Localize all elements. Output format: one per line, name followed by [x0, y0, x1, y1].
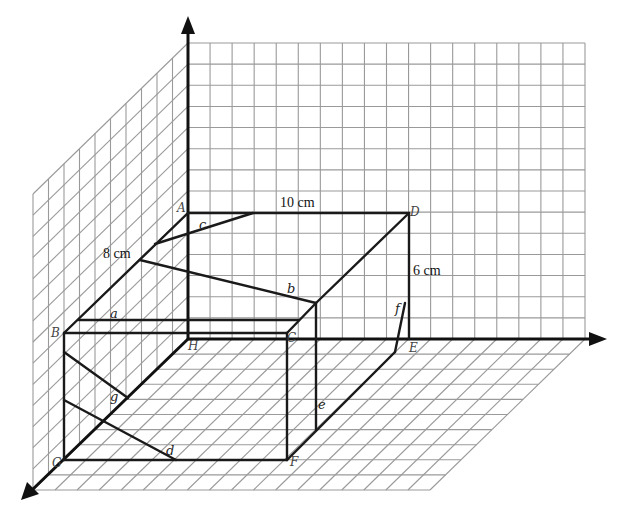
- floor-grid: [33, 339, 585, 490]
- depth-label: 8 cm: [103, 246, 131, 261]
- length-label: 10 cm: [280, 195, 315, 210]
- vertex-label-D: D: [409, 205, 420, 219]
- vertex-label-F: F: [289, 455, 299, 469]
- segment-label-f: f: [394, 301, 402, 316]
- segment-label-b: b: [287, 281, 295, 296]
- x-axis-arrow-icon: [589, 332, 607, 346]
- edge-FE: [287, 352, 395, 460]
- vertex-label-H: H: [187, 339, 199, 353]
- vertex-label-E: E: [408, 341, 418, 355]
- vertex-label-A: A: [176, 201, 186, 215]
- cuboid-diagram: A B C D E F G H a b c d e f g 10 cm 8 cm…: [0, 0, 634, 526]
- y-axis-arrow-icon: [181, 16, 195, 34]
- segment-label-c: c: [199, 217, 207, 232]
- vertex-label-G: G: [52, 456, 62, 470]
- dimension-labels: 10 cm 8 cm 6 cm: [103, 195, 441, 278]
- segment-label-g: g: [110, 389, 118, 404]
- segment-label-a: a: [110, 306, 118, 321]
- back-wall-grid: [188, 43, 585, 339]
- segment-label-e: e: [318, 397, 326, 412]
- segment-g-line: [64, 352, 128, 398]
- vertex-label-C: C: [287, 331, 296, 345]
- height-label: 6 cm: [413, 263, 441, 278]
- segment-label-d: d: [166, 443, 174, 458]
- vertex-label-B: B: [50, 326, 60, 340]
- edge-D-front: [316, 213, 409, 303]
